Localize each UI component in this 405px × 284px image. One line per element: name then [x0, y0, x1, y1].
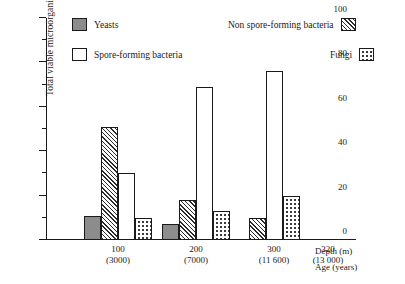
x-axis-title-age: Age (years) — [315, 262, 357, 273]
y-tick-label: 100 — [334, 5, 348, 14]
y-tick-minor — [42, 172, 46, 173]
y-axis-title: Total viable microorganisms (%) — [45, 0, 55, 96]
y-tick-major — [39, 106, 46, 107]
bar — [162, 224, 179, 240]
y-tick-label: 0 — [343, 227, 348, 236]
y-tick-label: 80 — [338, 49, 347, 58]
plot-area: Total viable microorganisms (%) 02040608… — [46, 18, 356, 240]
y-tick-label: 20 — [338, 183, 347, 192]
chart-figure: Yeasts Non spore-forming bacteria Spore-… — [0, 0, 405, 284]
x-axis-title-depth: Depth (m) — [315, 246, 352, 257]
bar — [84, 216, 101, 240]
y-tick-minor — [42, 128, 46, 129]
bar — [118, 173, 135, 240]
y-tick-minor — [42, 217, 46, 218]
y-tick-minor — [42, 84, 46, 85]
y-tick-label: 60 — [338, 94, 347, 103]
legend-swatch-fungi — [359, 48, 374, 61]
y-tick-label: 40 — [338, 138, 347, 147]
bar — [213, 211, 230, 240]
x-axis-group-label: 200(7000) — [156, 244, 236, 266]
bar — [266, 71, 283, 240]
x-label-depth: 200 — [156, 244, 236, 255]
x-axis-group-label: 100(3000) — [78, 244, 158, 266]
bar — [101, 127, 118, 240]
bar — [196, 87, 213, 240]
y-tick-major — [39, 239, 46, 240]
x-label-age: (7000) — [156, 255, 236, 266]
y-tick-major — [39, 17, 46, 18]
y-tick-major — [39, 150, 46, 151]
bar — [135, 218, 152, 240]
bar — [179, 200, 196, 240]
y-tick-minor — [42, 39, 46, 40]
y-tick-major — [39, 195, 46, 196]
y-tick-major — [39, 61, 46, 62]
bar — [283, 196, 300, 240]
x-label-depth: 100 — [78, 244, 158, 255]
x-label-age: (3000) — [78, 255, 158, 266]
bar — [249, 218, 266, 240]
